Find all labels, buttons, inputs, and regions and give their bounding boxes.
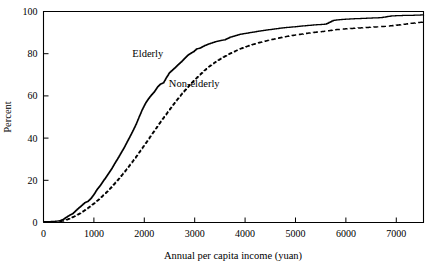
x-tick-label: 6000	[336, 228, 356, 239]
cdf-chart: 01000200030004000500060007000 0204060801…	[0, 0, 434, 267]
x-tick-label: 7000	[386, 228, 406, 239]
series-curves	[44, 15, 424, 222]
x-tick-label: 0	[41, 228, 46, 239]
series-curve-non-elderly	[44, 22, 424, 222]
y-tick-label: 40	[28, 133, 38, 144]
y-axis-tick-labels: 020406080100	[23, 6, 38, 228]
series-label-non-elderly: Non-elderly	[169, 78, 220, 89]
y-tick-label: 20	[28, 175, 38, 186]
y-tick-label: 0	[33, 217, 38, 228]
x-tick-label: 1000	[84, 228, 104, 239]
series-curve-elderly	[44, 15, 424, 222]
x-tick-label: 4000	[235, 228, 255, 239]
y-tick-label: 100	[23, 6, 38, 17]
axes-frame	[44, 12, 424, 223]
x-tick-label: 3000	[185, 228, 205, 239]
x-tick-label: 2000	[134, 228, 154, 239]
y-axis-title: Percent	[2, 101, 13, 133]
y-tick-label: 60	[28, 90, 38, 101]
x-axis-title: Annual per capita income (yuan)	[164, 250, 303, 262]
chart-container: 01000200030004000500060007000 0204060801…	[0, 0, 434, 267]
plot-frame	[44, 12, 424, 223]
x-axis-tick-labels: 01000200030004000500060007000	[41, 228, 406, 239]
y-tick-label: 80	[28, 48, 38, 59]
series-annotations: ElderlyNon-elderly	[132, 48, 220, 90]
x-axis-ticks	[44, 218, 397, 223]
series-label-elderly: Elderly	[132, 48, 164, 59]
x-tick-label: 5000	[285, 228, 305, 239]
y-axis-ticks	[44, 54, 49, 181]
